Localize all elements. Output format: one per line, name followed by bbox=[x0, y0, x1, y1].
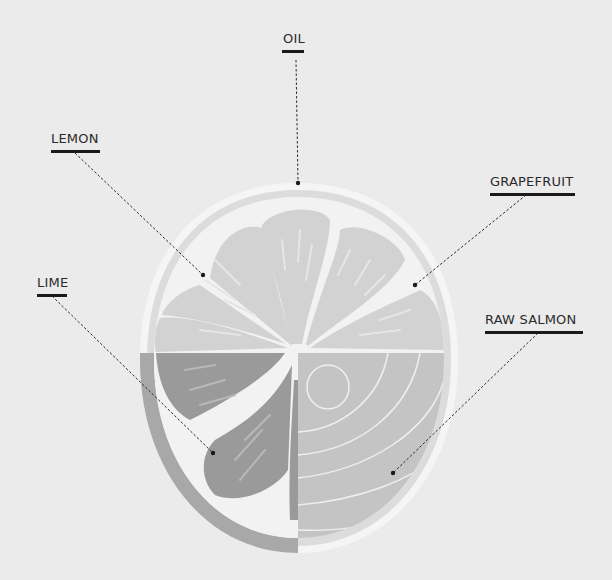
label-lemon-underline bbox=[51, 150, 100, 153]
label-lime: LIME bbox=[37, 275, 68, 290]
label-raw-salmon-underline bbox=[485, 331, 583, 334]
label-lemon: LEMON bbox=[51, 131, 99, 146]
label-raw-salmon: RAW SALMON bbox=[485, 312, 576, 327]
label-grapefruit: GRAPEFRUIT bbox=[490, 174, 573, 189]
label-lime-underline bbox=[37, 294, 67, 297]
citrus-diagram bbox=[0, 0, 612, 580]
label-grapefruit-underline bbox=[490, 193, 575, 196]
label-oil: OIL bbox=[283, 31, 305, 46]
label-oil-underline bbox=[282, 50, 304, 53]
